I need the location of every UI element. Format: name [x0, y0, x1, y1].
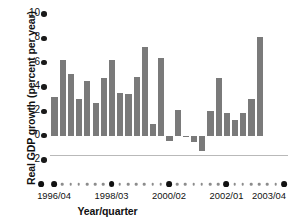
y-tick-label: 8: [18, 32, 40, 42]
bar: [142, 47, 148, 136]
y-tick-label: 4: [18, 81, 40, 91]
y-tick-dot: [41, 133, 47, 139]
x-tick-dot-major: [109, 181, 115, 187]
x-tick-dot-minor: [233, 183, 236, 186]
bar: [257, 37, 263, 136]
y-tick-label: 10: [18, 8, 40, 18]
bar: [191, 136, 197, 142]
x-tick-dot-minor: [159, 183, 162, 186]
x-tick-dot-minor: [176, 183, 179, 186]
bar: [93, 103, 99, 136]
bar: [101, 78, 107, 135]
bar: [183, 136, 189, 138]
bar: [175, 110, 181, 136]
y-tick-dot: [41, 109, 47, 115]
y-tick-label: -2: [18, 154, 40, 164]
y-tick-label: 0: [18, 130, 40, 140]
x-tick-dot-minor: [69, 183, 72, 186]
bar: [232, 120, 238, 136]
x-tick-dot-major: [51, 181, 57, 187]
x-tick-dot-minor: [266, 183, 269, 186]
bar: [248, 99, 254, 136]
x-tick-dot-minor: [86, 183, 89, 186]
x-tick-dot-minor: [258, 183, 261, 186]
y-tick-dot: [41, 11, 47, 17]
x-tick-dot-minor: [184, 183, 187, 186]
zero-baseline: [50, 155, 288, 156]
x-axis-title: Year/quarter: [0, 205, 215, 217]
y-tick-dot: [41, 84, 47, 90]
bar: [158, 58, 164, 136]
x-tick-dot-minor: [209, 183, 212, 186]
bar: [150, 124, 156, 136]
x-tick-dot-minor: [94, 183, 97, 186]
bar: [84, 81, 90, 136]
bar: [76, 99, 82, 136]
x-tick-label: 1996/04: [37, 190, 71, 201]
x-tick-dot-major: [224, 181, 230, 187]
x-tick-dot-minor: [201, 183, 204, 186]
bar: [216, 78, 222, 135]
bar: [117, 93, 123, 136]
bar: [240, 113, 246, 136]
x-tick-dot-minor: [274, 183, 277, 186]
x-axis-tick-labels: 1996/041998/032000/022002/012003/04: [0, 190, 295, 204]
bar: [134, 77, 140, 135]
bar: [51, 97, 57, 136]
x-tick-dot-minor: [127, 183, 130, 186]
x-tick-dot-minor: [77, 183, 80, 186]
x-tick-dot-minor: [250, 183, 253, 186]
x-tick-label: 2003/04: [252, 190, 286, 201]
x-tick-dot-major: [166, 181, 172, 187]
x-tick-dot-minor: [61, 183, 64, 186]
bar: [60, 60, 66, 135]
plot-area: [50, 14, 288, 160]
x-tick-dot-minor: [118, 183, 121, 186]
x-tick-dot-minor: [143, 183, 146, 186]
bar: [224, 113, 230, 136]
x-tick-dot-minor: [102, 183, 105, 186]
x-tick-dot-minor: [192, 183, 195, 186]
bar: [125, 94, 131, 135]
y-tick-label: 2: [18, 105, 40, 115]
x-tick-label: 1998/03: [95, 190, 129, 201]
bar: [109, 60, 115, 135]
y-tick-label: 6: [18, 57, 40, 67]
bar: [207, 111, 213, 135]
bar: [166, 136, 172, 141]
x-tick-dot-minor: [151, 183, 154, 186]
x-tick-dot-minor: [242, 183, 245, 186]
x-tick-label: 2002/01: [209, 190, 243, 201]
x-tick-dot-minor: [217, 183, 220, 186]
x-tick-dot-major: [281, 181, 287, 187]
x-axis-dot-rail: [40, 180, 290, 188]
bar: [199, 136, 205, 152]
y-tick-dot: [41, 157, 47, 163]
gdp-growth-bar-chart: Real GDP growth (percent per year) 10864…: [0, 0, 295, 224]
y-tick-dot: [41, 36, 47, 42]
x-tick-label: 2000/02: [152, 190, 186, 201]
bar: [68, 74, 74, 136]
y-tick-dot: [41, 60, 47, 66]
x-axis-origin-dot: [38, 181, 44, 187]
x-tick-dot-minor: [135, 183, 138, 186]
